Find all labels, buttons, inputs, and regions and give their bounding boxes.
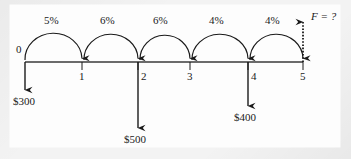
interest-rate-label-3-4: 4% (209, 15, 224, 26)
timeline-node-label-3: 3 (187, 71, 193, 82)
interest-arc-0-1 (25, 33, 82, 60)
interest-rate-label-4-5: 4% (265, 15, 280, 26)
interest-rate-label-1-2: 6% (100, 15, 115, 26)
interest-arcs (25, 33, 303, 60)
timeline-node-label-1: 1 (79, 71, 85, 82)
interest-arc-3-4 (192, 34, 248, 60)
interest-arc-1-2 (84, 34, 138, 60)
timeline-node-label-0: 0 (16, 44, 22, 55)
cash-flow-label-300: $300 (13, 96, 35, 107)
timeline-node-label-2: 2 (141, 71, 147, 82)
cash-flow-label-500: $500 (124, 134, 146, 145)
interest-rate-label-0-1: 5% (44, 15, 59, 26)
interest-rate-label-2-3: 6% (153, 15, 168, 26)
future-value-label: F = ? (311, 11, 336, 22)
interest-arc-2-3 (140, 35, 190, 60)
cash-flow-diagram-screenshot: 5% 6% 6% 4% 4% 0 1 2 3 4 5 $300 $500 $40… (0, 0, 351, 159)
cash-flow-arrows (25, 62, 248, 128)
cash-flow-label-400: $400 (234, 112, 256, 123)
timeline-ticks (82, 62, 303, 70)
interest-arc-4-5 (250, 34, 303, 60)
timeline-node-label-4: 4 (251, 71, 257, 82)
timeline-node-label-5: 5 (300, 71, 306, 82)
